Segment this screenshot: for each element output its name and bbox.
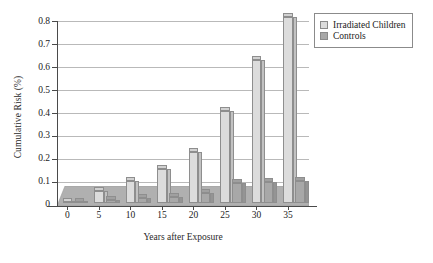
bar-top-face (94, 187, 104, 191)
bar-controls-year-20 (201, 193, 211, 203)
x-tick-label-10: 10 (118, 210, 142, 220)
bar-top-face (157, 165, 167, 169)
x-tick-label-0: 0 (55, 210, 79, 220)
bar-irradiated-year-0 (63, 202, 73, 203)
cumulative-risk-bar-chart: Cumulative Risk (%) 0.8 0.7 0.6 0.5 0.4 … (0, 0, 433, 263)
x-tick-label-5: 5 (87, 210, 111, 220)
legend-label-irradiated-children: Irradiated Children (333, 20, 406, 30)
bar-top-face (75, 198, 85, 202)
y-tick-label-0_1: 0.1 (24, 176, 50, 186)
bar-front-face (106, 200, 116, 203)
bar-top-face (295, 177, 305, 181)
bar-front-face (189, 152, 199, 203)
bar-front-face (169, 197, 179, 203)
bar-top-face (201, 189, 211, 193)
bar-front-face (283, 17, 293, 203)
bar-front-face (232, 183, 242, 203)
bar-top-face (63, 198, 73, 202)
legend-item-irradiated-children: Irradiated Children (320, 20, 406, 30)
bar-front-face (94, 191, 104, 203)
bar-side-face (210, 193, 214, 203)
bar-side-face (84, 201, 88, 203)
bar-controls-year-30 (264, 182, 274, 203)
bar-top-face (283, 13, 293, 17)
x-tick-label-30: 30 (244, 210, 268, 220)
bar-front-face (295, 181, 305, 203)
x-tick-label-15: 15 (150, 210, 174, 220)
bar-controls-year-25 (232, 183, 242, 203)
bar-controls-year-5 (106, 200, 116, 203)
bar-front-face (201, 193, 211, 203)
legend-swatch-controls (320, 32, 328, 40)
bar-top-face (252, 56, 262, 60)
bar-side-face (116, 200, 120, 203)
bar-irradiated-year-35 (283, 17, 293, 203)
bar-side-face (242, 183, 246, 203)
bar-top-face (220, 107, 230, 111)
legend-label-controls: Controls (333, 31, 366, 41)
bar-front-face (157, 169, 167, 203)
bar-irradiated-year-30 (252, 60, 262, 203)
bar-irradiated-year-15 (157, 169, 167, 203)
y-tick-label-0_4: 0.4 (24, 108, 50, 118)
bar-front-face (252, 60, 262, 203)
bar-front-face (138, 198, 148, 203)
bar-front-face (264, 182, 274, 203)
bar-irradiated-year-20 (189, 152, 199, 203)
bar-side-face (305, 181, 309, 203)
bar-irradiated-year-5 (94, 191, 104, 203)
bar-top-face (138, 194, 148, 198)
bar-top-face (106, 196, 116, 200)
y-tick-label-0_6: 0.6 (24, 62, 50, 72)
bar-side-face (147, 198, 151, 203)
bar-controls-year-15 (169, 197, 179, 203)
x-tick-label-20: 20 (181, 210, 205, 220)
bar-top-face (126, 177, 136, 181)
bar-controls-year-0 (75, 202, 85, 203)
bar-irradiated-year-25 (220, 111, 230, 203)
bar-top-face (189, 148, 199, 152)
bar-controls-year-10 (138, 198, 148, 203)
bar-side-face (179, 197, 183, 203)
bar-side-face (273, 182, 277, 203)
bar-side-face (293, 17, 297, 203)
y-tick-label-0_3: 0.3 (24, 130, 50, 140)
legend-swatch-irradiated-children (320, 21, 328, 29)
y-tick-label-0: 0 (24, 199, 50, 209)
x-tick-label-25: 25 (213, 210, 237, 220)
bar-front-face (220, 111, 230, 203)
y-axis-title: Cumulative Risk (%) (13, 47, 23, 187)
bar-front-face (126, 181, 136, 203)
bar-irradiated-year-10 (126, 181, 136, 203)
y-tick-label-0_5: 0.5 (24, 85, 50, 95)
legend: Irradiated Children Controls (314, 13, 413, 48)
bar-top-face (232, 179, 242, 183)
bar-controls-year-35 (295, 181, 305, 203)
bar-top-face (169, 193, 179, 197)
y-tick-label-0_7: 0.7 (24, 39, 50, 49)
x-axis-title: Years after Exposure (57, 232, 309, 242)
bars-layer (57, 21, 309, 207)
x-tick-label-35: 35 (276, 210, 300, 220)
y-tick-label-0_8: 0.8 (24, 16, 50, 26)
y-tick-label-0_2: 0.2 (24, 153, 50, 163)
legend-item-controls: Controls (320, 31, 406, 41)
bar-top-face (264, 178, 274, 182)
